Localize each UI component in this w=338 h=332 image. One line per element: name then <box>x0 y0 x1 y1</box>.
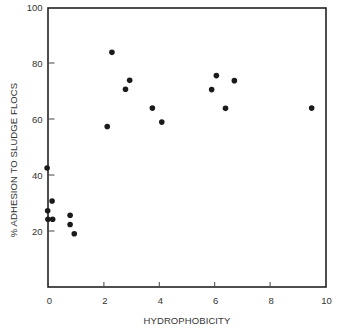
x-axis-title: HYDROPHOBICITY <box>144 315 231 326</box>
y-axis-title: % ADHESION TO SLUDGE FLOCS <box>8 83 19 237</box>
data-point <box>67 222 73 228</box>
x-tick-label: 10 <box>321 295 332 306</box>
y-tick-label: 100 <box>27 2 43 13</box>
x-tick-label: 6 <box>213 295 218 306</box>
data-point <box>50 216 56 222</box>
data-point <box>159 119 165 125</box>
y-tick-label: 60 <box>32 114 43 125</box>
x-tick-label: 0 <box>47 295 52 306</box>
data-point <box>71 231 77 237</box>
data-point <box>104 124 110 130</box>
data-point <box>49 198 55 204</box>
scatter-chart: 20406080100 0246810 HYDROPHOBICITY % ADH… <box>0 0 338 332</box>
x-tick-label: 8 <box>268 295 273 306</box>
plot-frame <box>48 8 326 287</box>
x-axis-ticks: 0246810 <box>47 282 332 306</box>
y-tick-label: 40 <box>32 170 43 181</box>
data-point <box>309 105 315 111</box>
data-point <box>44 165 50 171</box>
x-tick-label: 2 <box>102 295 107 306</box>
data-point <box>150 105 156 111</box>
x-tick-label: 4 <box>158 295 163 306</box>
data-point <box>45 208 51 214</box>
data-point <box>123 87 129 93</box>
data-points <box>44 50 314 237</box>
y-tick-label: 80 <box>32 58 43 69</box>
data-point <box>232 78 238 84</box>
data-point <box>223 106 229 112</box>
data-point <box>67 213 73 219</box>
data-point <box>109 50 115 56</box>
y-tick-label: 20 <box>32 226 43 237</box>
data-point <box>214 73 220 79</box>
data-point <box>209 87 215 93</box>
data-point <box>127 78 133 84</box>
